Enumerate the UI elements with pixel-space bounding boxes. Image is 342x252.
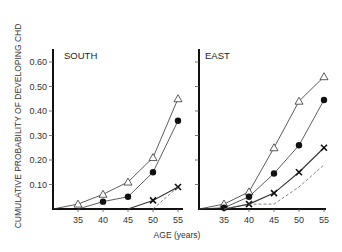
x-tick-label: 40	[244, 215, 254, 225]
x-tick-label: 35	[73, 215, 83, 225]
circle-marker-icon	[125, 194, 131, 200]
series-line-triangle	[199, 77, 324, 209]
triangle-marker-icon	[99, 190, 107, 197]
east-x-ticks: 3540455055	[219, 209, 329, 225]
circle-marker-icon	[221, 205, 227, 211]
x-tick-label: 35	[219, 215, 229, 225]
y-tick-label: 0.50	[29, 82, 47, 92]
triangle-marker-icon	[270, 144, 278, 151]
x-tick-label: 45	[269, 215, 279, 225]
south-panel-title: SOUTH	[64, 50, 97, 61]
y-axis-title: CUMULATIVE PROBABILITY OF DEVELOPING CHD	[13, 24, 23, 229]
circle-marker-icon	[321, 97, 327, 103]
y-tick-label: 0.40	[29, 106, 47, 116]
x-tick-label: 40	[98, 215, 108, 225]
x-marker-icon	[271, 190, 277, 196]
y-tick-label: 0.20	[29, 155, 47, 165]
triangle-marker-icon	[320, 73, 328, 80]
y-tick-label: 0.10	[29, 180, 47, 190]
x-marker-icon	[321, 145, 327, 151]
y-tick-label: 0.30	[29, 131, 47, 141]
x-tick-label: 45	[123, 215, 133, 225]
east-panel-title: EAST	[205, 50, 230, 61]
x-tick-label: 55	[173, 215, 183, 225]
x-tick-label: 50	[294, 215, 304, 225]
x-axis-title: AGE (years)	[154, 230, 201, 240]
east-panel: EAST 3540455055	[195, 49, 329, 225]
y-tick-label: 0.60	[29, 57, 47, 67]
east-series	[199, 73, 328, 211]
south-y-ticks: 0.100.200.300.400.500.60	[29, 57, 53, 190]
circle-marker-icon	[271, 170, 277, 176]
series-line-triangle	[53, 99, 178, 209]
circle-marker-icon	[150, 169, 156, 175]
x-marker-icon	[296, 169, 302, 175]
x-tick-label: 55	[319, 215, 329, 225]
series-line-cross	[224, 148, 324, 209]
x-marker-icon	[150, 197, 156, 203]
x-tick-label: 50	[148, 215, 158, 225]
triangle-marker-icon	[149, 154, 157, 161]
triangle-marker-icon	[174, 95, 182, 102]
circle-marker-icon	[100, 198, 106, 204]
circle-marker-icon	[296, 142, 302, 148]
south-panel: SOUTH 0.100.200.300.400.500.60 354045505…	[29, 49, 183, 225]
south-x-ticks: 3540455055	[73, 209, 183, 225]
circle-marker-icon	[175, 118, 181, 124]
circle-marker-icon	[246, 194, 252, 200]
series-line-circle	[199, 100, 324, 209]
series-line-cross	[128, 187, 178, 209]
south-series	[53, 95, 182, 209]
triangle-marker-icon	[74, 200, 82, 207]
chd-probability-chart: CUMULATIVE PROBABILITY OF DEVELOPING CHD…	[0, 0, 342, 252]
